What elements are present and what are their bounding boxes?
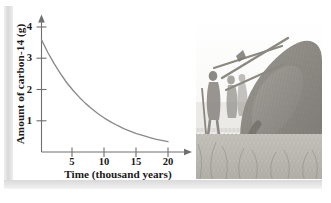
hunter-2-body [227, 85, 238, 118]
y-axis-label: Amount of carbon-14 (g) [14, 16, 26, 152]
x-tick-label-20: 20 [160, 156, 176, 167]
y-axis-arrowhead [38, 15, 45, 23]
x-axis-arrowhead [184, 149, 192, 156]
hunter-3-body [238, 83, 248, 116]
x-tick-label-10: 10 [96, 156, 112, 167]
mammoth-hunt-illustration [196, 16, 322, 179]
hunter-1-body [207, 82, 221, 120]
x-tick-label-5: 5 [64, 156, 80, 167]
decay-curve [42, 40, 169, 142]
decay-chart: 4 3 2 1 5 10 15 20 Amount of carbon-14 (… [0, 0, 200, 196]
carbon-14-decay-figure: 4 3 2 1 5 10 15 20 Amount of carbon-14 (… [0, 0, 331, 203]
hunter-3-head [239, 74, 246, 82]
hunter-1-head [209, 71, 218, 81]
x-tick-label-15: 15 [128, 156, 144, 167]
hunter-2-head [227, 76, 235, 85]
x-axis-label: Time (thousand years) [42, 168, 194, 180]
